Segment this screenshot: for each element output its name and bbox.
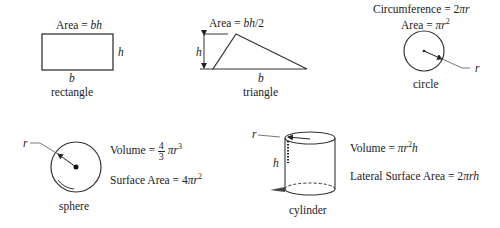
sphere-volume-formula: Volume = 43 πr3: [110, 141, 182, 162]
circle-circumference-formula: Circumference = 2πr: [373, 4, 470, 16]
rectangle-formula: Area = bh: [56, 20, 102, 32]
triangle-formula: Area = bh/2: [209, 18, 264, 30]
sphere-shape: [30, 142, 101, 192]
cylinder-shape: [258, 132, 335, 195]
circle-radius-label: r: [475, 63, 479, 75]
circle-shape: [404, 31, 470, 71]
sphere-radius-label: r: [23, 138, 27, 150]
cylinder-name: cylinder: [289, 205, 327, 217]
geometry-figures: [0, 0, 500, 228]
sphere-name: sphere: [59, 201, 89, 213]
cylinder-lateral-formula: Lateral Surface Area = 2πrh: [350, 171, 479, 183]
triangle-height-label: h: [196, 47, 202, 59]
cylinder-height-label: h: [273, 158, 279, 170]
triangle-shape: [200, 34, 307, 69]
triangle-name: triangle: [243, 87, 278, 99]
circle-area-formula: Area = πr2: [401, 18, 450, 31]
rectangle-shape: [42, 34, 113, 70]
circle-name: circle: [413, 79, 439, 91]
cylinder-radius-label: r: [252, 129, 256, 141]
rectangle-height-label: h: [118, 47, 124, 59]
rectangle-base-label: b: [69, 73, 75, 85]
sphere-surface-formula: Surface Area = 4πr2: [110, 173, 202, 186]
triangle-base-label: b: [258, 73, 264, 85]
rectangle-name: rectangle: [51, 87, 93, 99]
cylinder-volume-formula: Volume = πr2h: [350, 141, 418, 154]
